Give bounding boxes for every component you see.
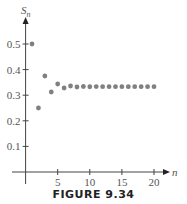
data-point [36, 106, 41, 111]
figure-caption: FIGURE 9.34 [0, 188, 187, 201]
x-axis-arrow-icon [163, 169, 170, 175]
x-tick-label: 5 [55, 176, 61, 188]
data-point [55, 82, 60, 87]
data-point [75, 85, 80, 90]
x-axis-label: n [172, 166, 178, 178]
data-point [81, 84, 86, 89]
data-point [120, 84, 125, 89]
x-tick-label: 20 [149, 176, 161, 188]
y-tick-label: 0.1 [7, 140, 21, 152]
data-point [139, 84, 144, 89]
x-tick-label: 15 [116, 176, 128, 188]
data-point [100, 84, 105, 89]
data-point [145, 84, 150, 89]
data-point [68, 84, 73, 89]
data-point [94, 84, 99, 89]
data-point [126, 84, 131, 89]
data-point [62, 86, 67, 91]
y-tick-label: 0.5 [7, 38, 21, 50]
data-point [132, 84, 137, 89]
data-points [30, 42, 157, 111]
x-tick-label: 10 [84, 176, 96, 188]
y-axis-label: Sn [21, 4, 31, 19]
data-point [30, 42, 35, 47]
data-point [42, 74, 47, 79]
data-point [49, 90, 54, 95]
data-point [152, 84, 157, 89]
y-tick-label: 0.3 [7, 89, 21, 101]
data-point [113, 84, 118, 89]
y-tick-label: 0.2 [7, 115, 21, 127]
data-point [87, 84, 92, 89]
data-point [107, 84, 112, 89]
y-tick-label: 0.4 [7, 64, 21, 76]
scatter-chart: n Sn 5101520 0.10.20.30.40.5 [0, 0, 187, 204]
